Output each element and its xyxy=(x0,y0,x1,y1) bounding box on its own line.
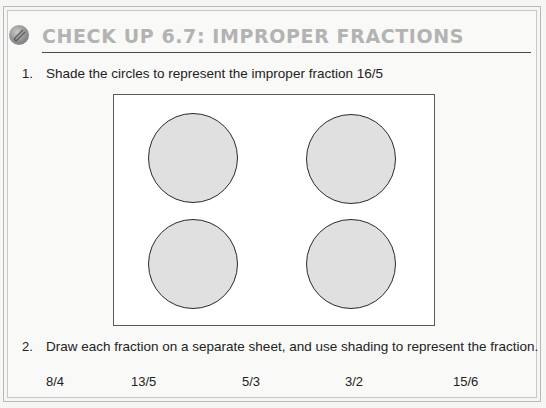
circle-4[interactable] xyxy=(306,219,396,309)
fraction-item: 5/3 xyxy=(242,374,260,389)
circle-2[interactable] xyxy=(306,114,396,204)
title-divider xyxy=(42,52,531,53)
fraction-item: 15/6 xyxy=(453,374,478,389)
circle-1[interactable] xyxy=(148,113,238,203)
fraction-item: 13/5 xyxy=(131,374,156,389)
pencil-badge-icon xyxy=(9,25,29,45)
fraction-item: 8/4 xyxy=(46,374,64,389)
fraction-item: 3/2 xyxy=(345,374,363,389)
question-1-number: 1. xyxy=(22,66,33,81)
circle-3[interactable] xyxy=(148,219,238,309)
question-2-text: Draw each fraction on a separate sheet, … xyxy=(46,339,538,354)
question-2-number: 2. xyxy=(22,339,33,354)
page-title: CHECK UP 6.7: IMPROPER FRACTIONS xyxy=(42,25,464,47)
circles-diagram xyxy=(113,94,435,326)
question-1-text: Shade the circles to represent the impro… xyxy=(46,66,383,81)
